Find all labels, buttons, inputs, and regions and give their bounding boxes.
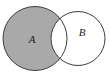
set-label-b: B bbox=[79, 26, 86, 38]
venn-diagram-figure: A B bbox=[0, 0, 109, 77]
shaded-region-a-minus-b bbox=[0, 0, 109, 77]
venn-diagram-canvas: A B bbox=[0, 0, 109, 77]
set-label-a: A bbox=[28, 33, 36, 45]
shade-fill bbox=[0, 0, 109, 77]
